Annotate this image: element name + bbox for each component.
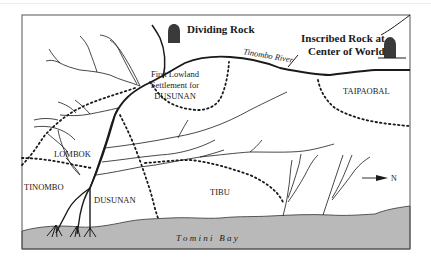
north-arrow-icon xyxy=(362,175,388,181)
pointer-inscribed-rock-upper xyxy=(381,15,410,35)
region-lombok: LOMBOK xyxy=(54,149,92,159)
tributaries xyxy=(34,35,370,216)
region-taipaobal: TAIPAOBAL xyxy=(343,86,390,96)
settlement-label-line1: First Lowland xyxy=(151,69,200,79)
tinombo-river xyxy=(90,57,410,188)
region-tibu: TIBU xyxy=(210,187,230,197)
north-label: N xyxy=(391,174,397,183)
inscribed-rock-label-line1: Inscribed Rock at xyxy=(301,32,385,44)
dividing-rock-label: Dividing Rock xyxy=(187,23,255,35)
trib xyxy=(100,35,137,84)
settlement-label-line3: DUSUNAN xyxy=(154,91,196,101)
region-tinombo: TINOMBO xyxy=(24,182,64,192)
tomini-bay-label: T o m i n i B a y xyxy=(176,233,238,243)
river-label: Tinombo River xyxy=(243,46,295,65)
settlement-label-line2: Settlement for xyxy=(151,80,200,90)
region-dusunan: DUSUNAN xyxy=(94,195,136,205)
inscribed-rock-label-line2: Center of World xyxy=(308,45,385,57)
dividing-rock-icon xyxy=(168,24,180,43)
map: Dividing Rock Inscribed Rock at Center o… xyxy=(0,0,431,259)
